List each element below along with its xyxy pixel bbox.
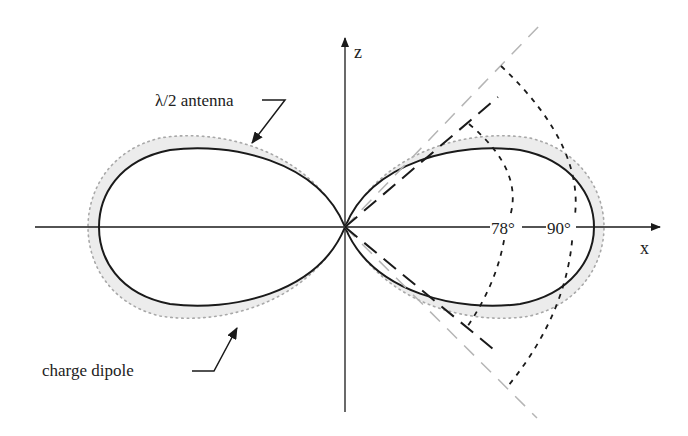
z-axis-label: z [354, 42, 362, 62]
antenna-pointer [252, 100, 285, 143]
x-axis-label: x [640, 238, 649, 258]
radiation-pattern-diagram: 78° 90° x z λ/2 antenna charge dipole [0, 0, 688, 436]
dipole-pointer [192, 328, 237, 371]
angle-90-label: 90° [547, 219, 571, 238]
diagram-canvas: 78° 90° x z λ/2 antenna charge dipole [0, 0, 688, 436]
antenna-label: λ/2 antenna [155, 91, 234, 110]
dipole-label: charge dipole [42, 361, 134, 380]
angle-78-label: 78° [491, 219, 515, 238]
